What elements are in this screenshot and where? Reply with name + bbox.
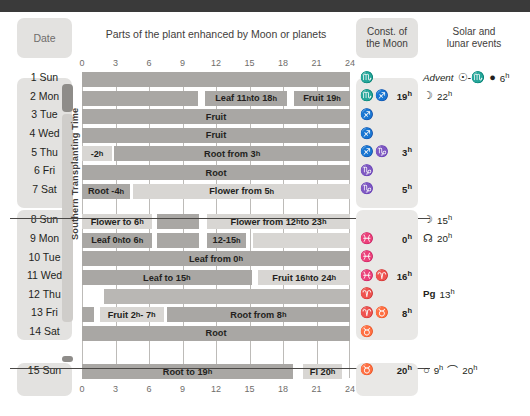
constellation-hour: 19h bbox=[397, 89, 412, 102]
axis-tick-label: 3 bbox=[113, 58, 118, 68]
constellation-cell: ♐ bbox=[356, 105, 418, 124]
constellation-cell: ♑ bbox=[356, 161, 418, 180]
constellation-cell: ♈♉8h bbox=[356, 303, 418, 322]
chart-row: Fruit 2h - 7hRoot from 8h bbox=[82, 307, 350, 322]
axis-tick-label: 6 bbox=[146, 384, 151, 394]
constellation-cell: ♉ bbox=[356, 322, 418, 341]
constellation-cell: ♏ bbox=[356, 68, 418, 87]
constellation-column-header: Const. of the Moon bbox=[356, 18, 418, 58]
chart-row: Fruit bbox=[82, 128, 350, 143]
zodiac-symbol-icon: ♈♉ bbox=[360, 306, 390, 319]
zodiac-symbol-icon: ♓♈ bbox=[360, 269, 390, 282]
date-column-header: Date bbox=[17, 18, 72, 58]
chart-row: Root bbox=[82, 326, 350, 341]
chart-row bbox=[82, 72, 350, 87]
zodiac-symbol-icon: ♐ bbox=[360, 108, 375, 121]
constellation-cell: ♉20h bbox=[356, 360, 418, 379]
axis-tick-label: 3 bbox=[113, 384, 118, 394]
transplanting-seg-c bbox=[62, 356, 73, 362]
event-text: 15h bbox=[437, 213, 452, 226]
chart-bar-segment bbox=[157, 214, 199, 229]
constellation-cell: ♓ bbox=[356, 247, 418, 266]
astro-symbol-icon: ● bbox=[489, 71, 496, 83]
constellation-cell bbox=[356, 210, 418, 229]
zodiac-symbol-icon: ♐ bbox=[360, 127, 375, 140]
astro-symbol-icon: ○ bbox=[423, 364, 430, 376]
zodiac-symbol-icon: ♓ bbox=[360, 232, 375, 245]
axis-tick-label: 21 bbox=[311, 58, 321, 68]
chart-bar-segment bbox=[104, 289, 350, 304]
zodiac-symbol-icon: ♏♐ bbox=[360, 89, 390, 102]
transplanting-time-indicator: Southern Transplanting Time bbox=[62, 84, 73, 359]
astro-symbol-icon: ☽ bbox=[423, 89, 433, 102]
event-text: Advent bbox=[423, 72, 454, 83]
event-text: 22h bbox=[437, 89, 452, 102]
chart-bar-segment: Root -4h bbox=[82, 184, 130, 199]
axis-tick-label: 12 bbox=[211, 58, 221, 68]
chart-bar-segment: Fl 20h bbox=[303, 364, 342, 379]
events-header-line1: Solar and bbox=[453, 26, 496, 39]
axis-tick-label: 9 bbox=[180, 384, 185, 394]
zodiac-symbol-icon: ♉ bbox=[360, 325, 375, 338]
constellation-cell: ♑5h bbox=[356, 180, 418, 199]
chart-row: Root -4hFlower from 5h bbox=[82, 184, 350, 199]
chart-row: Leaf from 0h bbox=[82, 251, 350, 266]
event-text: 13h bbox=[440, 287, 455, 300]
axis-tick-label: 18 bbox=[278, 384, 288, 394]
constellation-hour: 16h bbox=[397, 269, 412, 282]
chart-row: Leaf 11h to 18hFruit 19h bbox=[82, 91, 350, 106]
chart-row: Flower to 6hFlower from 12h to 23h bbox=[82, 214, 350, 229]
axis-top: 03691215182124 bbox=[82, 58, 350, 70]
chart-bar-segment: Flower from 12h to 23h bbox=[207, 214, 350, 229]
astro-symbol-icon: ☽ bbox=[423, 213, 433, 226]
chart-bar-segment: Leaf from 0h bbox=[82, 251, 350, 266]
chart-bar-segment bbox=[157, 233, 199, 248]
constellation-cell: ♓♈16h bbox=[356, 266, 418, 285]
astro-symbol-icon: ☊ bbox=[423, 232, 433, 245]
constellation-hour: 0h bbox=[402, 232, 412, 245]
plant-parts-chart: Parts of the plant enhanced by Moon or p… bbox=[82, 18, 350, 403]
axis-tick-label: 21 bbox=[311, 384, 321, 394]
zodiac-symbol-icon: ♉ bbox=[360, 363, 375, 376]
events-header-line2: lunar events bbox=[447, 38, 501, 51]
chart-row bbox=[82, 289, 350, 304]
chart-bar-segment bbox=[82, 307, 94, 322]
axis-bottom: 03691215182124 bbox=[82, 384, 350, 396]
chart-bar-segment: Leaf 11h to 18h bbox=[205, 91, 288, 106]
constellation-cell: ♈ bbox=[356, 285, 418, 304]
chart-bar-segment: Root from 8h bbox=[167, 307, 350, 322]
zodiac-symbol-icon: ♈ bbox=[360, 287, 375, 300]
chart-bar-segment bbox=[253, 233, 350, 248]
axis-tick-label: 15 bbox=[244, 58, 254, 68]
transplanting-time-label: Southern Transplanting Time bbox=[70, 110, 80, 240]
chart-bar-segment: Fruit 16h to 24h bbox=[258, 270, 350, 285]
date-cell: 15 Sun bbox=[17, 360, 72, 379]
chart-row: Leaf 0h to 6h12-15h bbox=[82, 233, 350, 248]
zodiac-symbol-icon: ♑ bbox=[360, 182, 375, 195]
chart-bar-segment: Leaf to 15h bbox=[82, 270, 252, 285]
zodiac-symbol-icon: ♐♑ bbox=[360, 145, 390, 158]
constellation-cell: ♓0h bbox=[356, 229, 418, 248]
constellation-hour: 3h bbox=[402, 145, 412, 158]
chart-bar-segment: -2h bbox=[82, 146, 112, 161]
chart-row: Root to 19hFl 20h bbox=[82, 364, 350, 379]
axis-tick-label: 18 bbox=[278, 58, 288, 68]
zodiac-symbol-icon: ♓ bbox=[360, 250, 375, 263]
axis-tick-label: 12 bbox=[211, 384, 221, 394]
zodiac-symbol-icon: ♏ bbox=[360, 71, 375, 84]
solar-lunar-event: Pg13h bbox=[423, 285, 528, 304]
axis-tick-label: 6 bbox=[146, 58, 151, 68]
astro-symbol-icon: ⌒ bbox=[447, 362, 458, 378]
events-column-header: Solar and lunar events bbox=[420, 18, 528, 58]
event-text: 20h bbox=[462, 363, 477, 376]
chart-row: Fruit bbox=[82, 109, 350, 124]
chart-row: -2hRoot from 3h bbox=[82, 146, 350, 161]
solar-lunar-event: ☽15h bbox=[423, 210, 528, 229]
chart-bar-segment: Root bbox=[82, 165, 350, 180]
chart-row: Leaf to 15hFruit 16h to 24h bbox=[82, 270, 350, 285]
chart-bar-segment: Flower from 5h bbox=[133, 184, 350, 199]
event-text: 20h bbox=[437, 231, 452, 244]
chart-row: Root bbox=[82, 165, 350, 180]
chart-bar-segment: Flower to 6h bbox=[82, 214, 152, 229]
top-decorative-bar bbox=[0, 0, 530, 12]
